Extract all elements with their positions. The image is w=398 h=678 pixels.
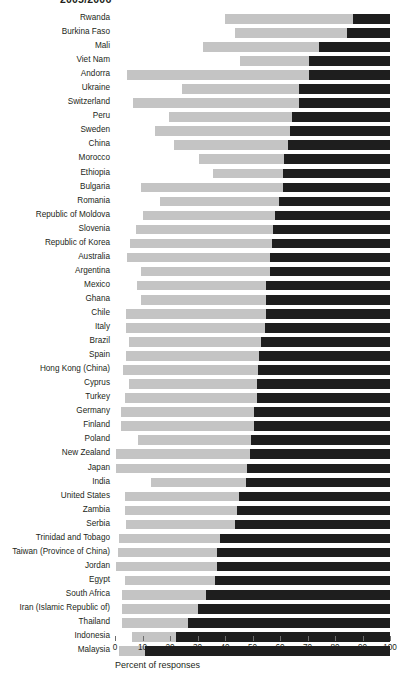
bar-segment-dark [266, 309, 390, 319]
chart-row: Poland [0, 433, 398, 447]
bar-track [115, 309, 390, 319]
bar-segment-dark [272, 239, 390, 249]
x-axis-tick-label: 20 [165, 643, 174, 653]
bar-segment-light [129, 337, 261, 347]
chart-row: Chile [0, 307, 398, 321]
bar-track [115, 197, 390, 207]
category-label: Egypt [0, 575, 110, 584]
bar-segment-dark [235, 520, 390, 530]
bar-segment-light [151, 478, 246, 488]
bar-track [115, 98, 390, 108]
bar-segment-dark [273, 225, 390, 235]
bar-segment-light [169, 112, 293, 122]
bar-segment-light [119, 534, 219, 544]
bar-segment-light [141, 295, 266, 305]
bar-segment-light [126, 309, 266, 319]
bar-segment-light [213, 169, 283, 179]
bar-track [115, 337, 390, 347]
bar-segment-light [141, 267, 270, 277]
bar-segment-light [123, 365, 258, 375]
bar-segment-light [133, 98, 299, 108]
bar-track [115, 225, 390, 235]
category-label: Germany [0, 406, 110, 415]
bar-segment-light [125, 576, 216, 586]
x-axis-tick [115, 636, 116, 641]
chart-row: Cyprus [0, 377, 398, 391]
category-label: Jordan [0, 561, 110, 570]
bar-track [115, 14, 390, 24]
x-axis-tick-label: 30 [193, 643, 202, 653]
bar-segment-dark [215, 576, 390, 586]
bar-segment-dark [283, 183, 390, 193]
bar-segment-light [126, 520, 235, 530]
bar-segment-dark [217, 562, 390, 572]
chart-row: United States [0, 490, 398, 504]
bar-segment-light [160, 197, 278, 207]
category-label: Bulgaria [0, 182, 110, 191]
chart-row: Argentina [0, 265, 398, 279]
chart-row: Zambia [0, 504, 398, 518]
bar-segment-light [199, 154, 284, 164]
category-label: Ghana [0, 294, 110, 303]
bar-segment-dark [270, 253, 390, 263]
bar-segment-dark [265, 323, 390, 333]
bar-segment-dark [309, 56, 390, 66]
bar-segment-light [122, 590, 206, 600]
chart-root: 2005/2006 RwandaBurkina FasoMaliViet Nam… [0, 0, 398, 678]
category-label: Argentina [0, 266, 110, 275]
chart-row: Finland [0, 419, 398, 433]
category-label: Republic of Korea [0, 238, 110, 247]
bar-track [115, 42, 390, 52]
bar-segment-dark [220, 534, 391, 544]
bar-track [115, 211, 390, 221]
category-label: Rwanda [0, 13, 110, 22]
chart-row: Australia [0, 251, 398, 265]
category-label: Peru [0, 111, 110, 120]
chart-row: Switzerland [0, 96, 398, 110]
bar-segment-dark [261, 337, 390, 347]
bar-segment-light [137, 281, 266, 291]
bar-track [115, 492, 390, 502]
bar-track [115, 351, 390, 361]
bar-segment-dark [309, 70, 390, 80]
x-axis-title: Percent of responses [115, 660, 200, 670]
category-label: United States [0, 491, 110, 500]
category-label: Mali [0, 41, 110, 50]
bar-track [115, 548, 390, 558]
x-axis-tick [308, 636, 309, 641]
bar-track [115, 534, 390, 544]
category-label: Burkina Faso [0, 27, 110, 36]
category-label: Taiwan (Province of China) [0, 547, 110, 556]
chart-row: Brazil [0, 335, 398, 349]
category-label: Turkey [0, 392, 110, 401]
bar-segment-dark [247, 464, 390, 474]
bar-segment-light [130, 239, 272, 249]
x-axis-tick-label: 100 [383, 643, 397, 653]
bar-segment-dark [257, 393, 390, 403]
chart-row: Mexico [0, 279, 398, 293]
bar-segment-light [122, 604, 198, 614]
bar-track [115, 478, 390, 488]
bar-segment-dark [237, 506, 390, 516]
bar-segment-dark [299, 98, 390, 108]
bar-segment-dark [257, 379, 390, 389]
bar-segment-dark [254, 421, 390, 431]
category-label: India [0, 477, 110, 486]
category-label: Cyprus [0, 378, 110, 387]
chart-row: Mali [0, 40, 398, 54]
x-axis-tick-label: 40 [220, 643, 229, 653]
category-label: Switzerland [0, 97, 110, 106]
category-label: Mexico [0, 280, 110, 289]
bar-segment-dark [347, 28, 390, 38]
bar-segment-dark [299, 84, 390, 94]
chart-row: Spain [0, 349, 398, 363]
chart-row: Ukraine [0, 82, 398, 96]
chart-row: Germany [0, 405, 398, 419]
x-axis-tick-label: 0 [113, 643, 118, 653]
bar-track [115, 56, 390, 66]
chart-row: Trinidad and Tobago [0, 532, 398, 546]
bar-segment-light [225, 14, 353, 24]
bar-track [115, 253, 390, 263]
bar-track [115, 239, 390, 249]
x-axis: Percent of responses 0102030405060708090… [0, 636, 398, 678]
